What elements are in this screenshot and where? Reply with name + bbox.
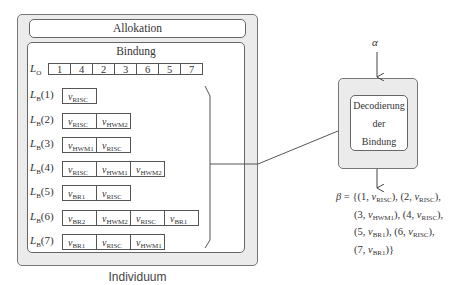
connector-lines: [0, 0, 459, 285]
connector-diagonal: [258, 131, 338, 164]
brace-icon: [205, 86, 210, 248]
